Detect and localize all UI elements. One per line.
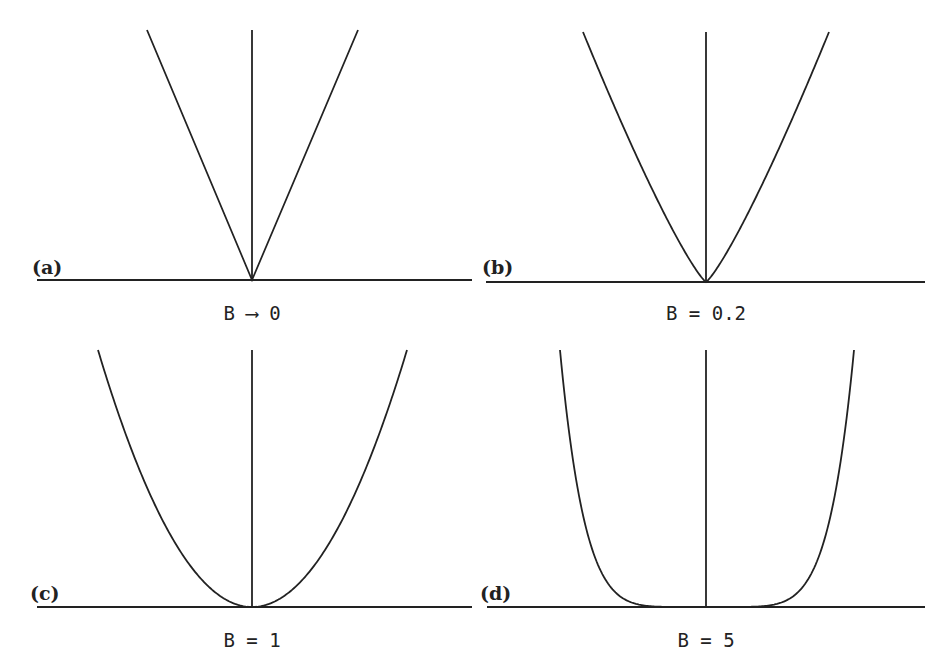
caption-d: B = 5 bbox=[677, 629, 734, 651]
panel-tag-d: (d) bbox=[480, 582, 511, 604]
panel-b: (b) B = 0.2 bbox=[482, 32, 925, 324]
caption-a: B ⟶ 0 bbox=[223, 302, 280, 324]
panel-d: (d) B = 5 bbox=[480, 350, 925, 651]
panel-tag-c: (c) bbox=[30, 582, 60, 604]
caption-b: B = 0.2 bbox=[666, 302, 746, 324]
panel-a: (a) B ⟶ 0 bbox=[32, 30, 472, 324]
panel-tag-b: (b) bbox=[482, 256, 513, 278]
curve-d bbox=[560, 350, 854, 607]
panel-c: (c) B = 1 bbox=[30, 350, 472, 651]
panel-tag-a: (a) bbox=[32, 256, 62, 278]
figure: (a) B ⟶ 0 (b) B = 0.2 (c) B = 1 (d) B = … bbox=[0, 0, 950, 663]
caption-c: B = 1 bbox=[223, 629, 280, 651]
